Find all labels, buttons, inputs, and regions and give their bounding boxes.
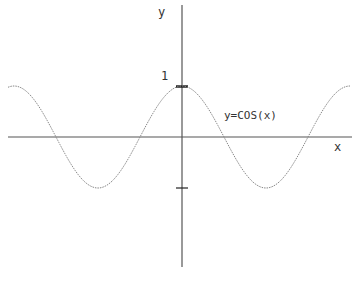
cosine-plot: y 1 y=COS(x) x [0, 0, 354, 281]
y-axis-label: y [158, 5, 165, 19]
curve-label: y=COS(x) [224, 109, 277, 122]
x-axis-label: x [334, 140, 341, 154]
tick-label-1: 1 [161, 69, 168, 83]
